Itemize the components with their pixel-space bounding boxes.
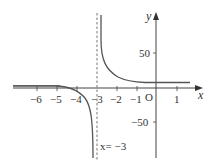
y-axis-arrow-icon [153,12,159,20]
x-tick-label: 1 [174,93,180,105]
x-tick-label: −5 [50,93,62,105]
x-tick-label: −2 [110,93,122,105]
origin-label: O [145,91,153,103]
graph-figure: −6 −5 −4 −3 −2 −1 1 O 50 −50 x y x= −3 [0,0,216,166]
x-tick-label: −4 [70,93,82,105]
y-tick-label: 50 [139,47,151,59]
graph-svg: −6 −5 −4 −3 −2 −1 1 O 50 −50 x y x= −3 [0,0,216,166]
x-tick-label: −1 [130,93,142,105]
x-tick-label: −6 [30,93,42,105]
y-tick-label: −50 [131,116,149,128]
asymptote-label: x= −3 [100,140,127,152]
x-axis-label: x [197,88,204,102]
y-axis-label: y [145,9,152,23]
